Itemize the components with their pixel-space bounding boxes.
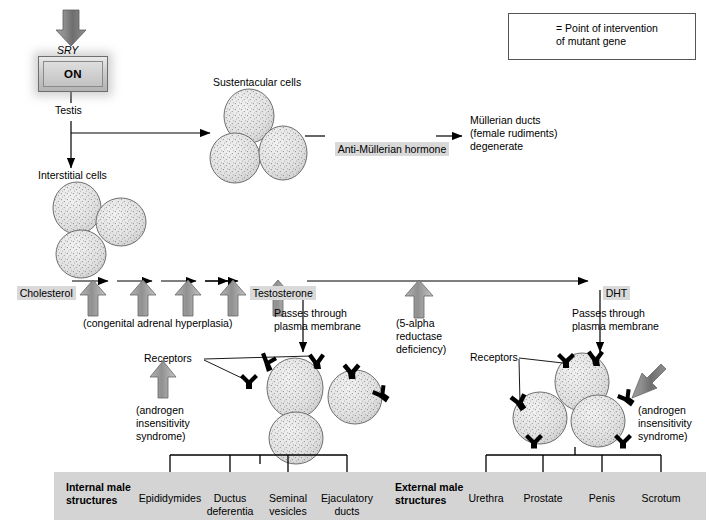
internal-item-4: Ejaculatory ducts [303,492,391,517]
reductase-line-2: reductase [396,330,442,343]
sustentacular-cells-label: Sustentacular cells [213,76,301,89]
cell [56,230,106,278]
cell [96,198,146,246]
ais-right-line-3: syndrome) [638,430,688,443]
internal-heading-line-2: structures [66,494,117,507]
reductase-intervention-arrow-icon [405,280,433,318]
cell [53,182,101,234]
testosterone-passes-line-1: Passes through [274,307,347,320]
mullerian-ducts-line-1: Müllerian ducts [470,114,541,127]
ais-right-line-1: (androgen [638,404,686,417]
cah-label: (congenital adrenal hyperplasia) [83,317,232,330]
mullerian-ducts-line-3: degenerate [470,140,523,153]
sry-gene-label: SRY [57,44,78,57]
testosterone-target-cell-cluster [240,353,390,465]
legend-line-1: = Point of intervention [556,22,658,35]
cell [269,412,323,464]
reductase-line-3: deficiency) [396,343,446,356]
receptors-label-right: Receptors [470,351,518,364]
anti-mullerian-hormone-label: Anti-Müllerian hormone [323,130,449,168]
ais-left-line-2: insensitivity [136,417,190,430]
dht-passes-line-1: Passes through [572,307,645,320]
intervention-arrow-icon [130,280,156,316]
sry-on-switch[interactable]: ON [38,56,108,92]
cell [259,126,307,180]
dht-label: DHT [591,274,630,312]
sry-input-arrow-icon [56,10,86,46]
ais-left-line-3: syndrome) [136,430,186,443]
cell [210,133,260,183]
testosterone-passes-line-2: plasma membrane [274,320,361,333]
external-item-4: Scrotum [619,492,703,505]
testosterone-label: Testosterone [238,274,316,312]
interstitial-cells-label: Interstitial cells [38,169,107,182]
ais-intervention-arrow-left-icon [150,361,176,398]
receptors-label-left: Receptors [144,352,192,365]
dht-passes-line-2: plasma membrane [572,320,659,333]
receptor-icon [614,434,632,449]
mullerian-ducts-line-2: (female rudiments) [470,127,558,140]
reductase-line-1: (5-alpha [396,317,435,330]
legend-line-2: of mutant gene [556,35,626,48]
ais-right-line-2: insensitivity [638,417,692,430]
cholesterol-label: Cholesterol [5,274,76,312]
ais-left-line-1: (androgen [136,404,184,417]
sustentacular-cell-cluster [210,89,307,183]
intervention-arrow-icon [80,280,106,316]
dht-target-cell-cluster [510,351,635,449]
receptor-icon [240,374,258,389]
testis-label: Testis [55,104,82,117]
diagram-canvas: ON = Point of intervention of mutant gen… [0,0,706,528]
ais-intervention-arrow-right-icon [628,364,666,398]
sry-on-label: ON [43,61,103,87]
intervention-arrow-icon [175,280,201,316]
external-heading-line-2: structures [395,494,446,507]
interstitial-cell-cluster [53,182,146,278]
testis-branch-lines [71,90,210,168]
